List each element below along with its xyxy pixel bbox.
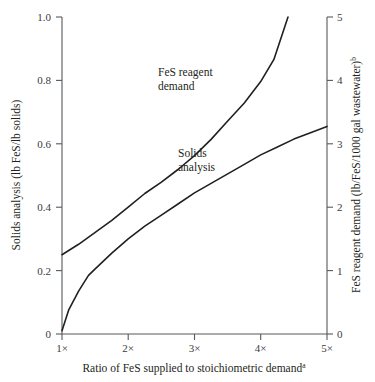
y2-axis-title-superscript: b (349, 57, 358, 61)
chart-figure: 1.0 0.8 0.6 0.4 0.2 0 5 4 3 2 1 0 (0, 0, 375, 382)
y2-tick-label: 2 (337, 201, 343, 213)
annotation-solids-line1: Solids (178, 147, 207, 159)
x-tick-label: 1× (56, 342, 68, 354)
x-axis-title-text: Ratio of FeS supplied to stoichiometric … (82, 362, 302, 375)
y2-tick-label: 3 (337, 138, 343, 150)
y2-axis-title: FeS reagent demand (lb/FeS/1000 gal wast… (349, 57, 364, 293)
y-tick-label: 1.0 (37, 11, 51, 23)
y2-tick-label: 1 (337, 265, 343, 277)
x-tick-label: 5× (321, 342, 333, 354)
y2-tick-label: 0 (337, 328, 343, 340)
chart-background (0, 0, 375, 382)
annotation-solids-line2: analysis (178, 161, 216, 174)
chart-svg: 1.0 0.8 0.6 0.4 0.2 0 5 4 3 2 1 0 (0, 0, 375, 382)
y-tick-label: 0.2 (37, 265, 51, 277)
y2-tick-label: 5 (337, 11, 343, 23)
y2-tick-label: 4 (337, 74, 343, 86)
x-tick-label: 4× (255, 342, 267, 354)
y-tick-label: 0.6 (37, 138, 51, 150)
y-tick-label: 0.8 (37, 74, 51, 86)
x-tick-label: 3× (189, 342, 201, 354)
y-axis-title-text: Solids analysis (lb FeS/lb solids) (10, 99, 23, 250)
y-tick-label: 0 (46, 328, 52, 340)
x-tick-label: 2× (122, 342, 134, 354)
y-axis-title: Solids analysis (lb FeS/lb solids) (10, 99, 23, 250)
annotation-fes-line1: FeS reagent (158, 66, 213, 79)
y-tick-label: 0.4 (37, 201, 51, 213)
x-axis-title: Ratio of FeS supplied to stoichiometric … (82, 361, 306, 376)
y2-axis-title-text: FeS reagent demand (lb/FeS/1000 gal wast… (350, 61, 363, 293)
annotation-fes-line2: demand (158, 80, 195, 92)
